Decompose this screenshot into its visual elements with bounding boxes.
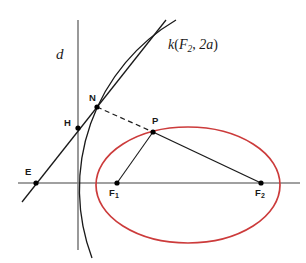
point-dot-p — [150, 129, 155, 134]
label-directrix-d: d — [56, 47, 64, 62]
point-dot-f1 — [114, 180, 119, 185]
label-circle-k-close: ) — [213, 37, 218, 52]
label-point-f2: F2 — [255, 188, 265, 198]
ellipse-curve — [96, 127, 280, 243]
label-circle-k-radius: 2a — [199, 37, 213, 52]
point-dot-n — [94, 104, 99, 109]
label-point-p: P — [152, 116, 158, 126]
point-dot-f2 — [258, 180, 263, 185]
point-dot-h — [75, 125, 80, 130]
label-circle-k: k(F2, 2a) — [168, 38, 218, 52]
figure-canvas — [0, 0, 306, 263]
label-point-n: N — [89, 93, 96, 103]
label-point-f1-sub: 1 — [115, 192, 119, 199]
segment-p-f1 — [117, 132, 153, 183]
label-point-f2-sub: 2 — [261, 192, 265, 199]
label-point-e: E — [25, 167, 31, 177]
geometry-figure: d k(F2, 2a) E H N P F1 F2 — [0, 0, 306, 263]
label-point-f1: F1 — [109, 188, 119, 198]
circle-k-arc — [79, 20, 176, 258]
ray-through-e-h-n — [22, 20, 166, 202]
label-point-h: H — [64, 118, 71, 128]
point-dot-e — [33, 180, 38, 185]
dashed-segment-n-p — [97, 107, 153, 132]
